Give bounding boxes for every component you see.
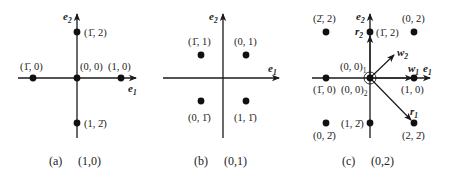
- e1-axis-label: e1: [423, 62, 432, 77]
- point-label: (2, 2̄): [402, 130, 425, 142]
- lattice-point: [323, 29, 330, 36]
- lattice-point: [243, 52, 250, 59]
- point-label: (1̄, 1): [188, 36, 211, 48]
- point-label: (1, 1̄): [234, 112, 257, 124]
- point-label: (1, 2̄): [341, 118, 364, 130]
- lattice-point: [323, 120, 330, 127]
- caption-value: (1,0): [78, 154, 101, 168]
- point-label: (1̄, 2): [376, 27, 399, 39]
- point-label: (0, 2̄): [313, 130, 336, 142]
- point-label: (1, 2̄): [84, 118, 107, 130]
- lattice-point: [118, 75, 125, 82]
- r2-vector-label: r2: [355, 25, 363, 40]
- e1-axis-label: e1: [128, 82, 137, 97]
- lattice-point: [30, 75, 37, 82]
- lattice-point: [411, 120, 418, 127]
- point-label: (2̄, 2): [313, 13, 336, 25]
- caption-value: (0,2): [371, 154, 394, 168]
- lattice-point: [323, 75, 330, 82]
- caption-letter: (b): [194, 154, 208, 168]
- panel-c: e2 e1 w2 w1 r1 r2 (2̄, 2) (1̄, 2) (0, 2)…: [312, 10, 432, 168]
- lattice-point: [74, 29, 81, 36]
- lattice-point: [243, 98, 250, 105]
- lattice-point: [74, 75, 81, 82]
- figure-container: e2 e1 (1̄, 2) (1̄, 0) (0, 0) (1, 0) (1, …: [0, 0, 452, 177]
- lattice-point: [198, 52, 205, 59]
- point-label: (1, 0): [401, 84, 424, 96]
- panel-b: e2 e1 (1̄, 1) (0, 1) (0, 1̄) (1, 1̄) (b)…: [163, 10, 279, 168]
- point-label: (1̄, 2): [84, 27, 107, 39]
- origin-label-lower: (0, 0)2: [341, 84, 368, 98]
- e2-axis-label: e2: [63, 10, 72, 25]
- e1-axis-label: e1: [268, 62, 277, 77]
- origin-label-upper: (0, 0)1: [340, 61, 367, 75]
- w1-vector-label: w1: [408, 62, 419, 77]
- lattice-point: [367, 29, 374, 36]
- lattice-point: [411, 29, 418, 36]
- point-label: (0, 2): [402, 13, 425, 25]
- lattice-point-origin: [367, 75, 374, 82]
- lattice-point: [74, 120, 81, 127]
- caption-value: (0,1): [224, 154, 247, 168]
- caption-letter: (c): [342, 154, 355, 168]
- point-label: (0, 0): [80, 61, 103, 73]
- point-label: (1, 0): [108, 61, 131, 73]
- lattice-point: [198, 98, 205, 105]
- w2-vector-label: w2: [397, 46, 408, 61]
- e2-axis-label: e2: [209, 10, 218, 25]
- point-label: (1̄, 0): [313, 84, 336, 96]
- point-label: (0, 1̄): [188, 112, 211, 124]
- lattice-point: [411, 75, 418, 82]
- caption-letter: (a): [49, 154, 62, 168]
- lattice-point: [367, 120, 374, 127]
- e2-axis-label: e2: [356, 10, 365, 25]
- r1-vector-label: r1: [410, 105, 418, 120]
- point-label: (0, 1): [234, 36, 257, 48]
- point-label: (1̄, 0): [20, 61, 43, 73]
- panel-a: e2 e1 (1̄, 2) (1̄, 0) (0, 0) (1, 0) (1, …: [18, 10, 137, 168]
- w2-vector-arrow: [370, 55, 394, 78]
- lattice-figure: e2 e1 (1̄, 2) (1̄, 0) (0, 0) (1, 0) (1, …: [0, 0, 452, 177]
